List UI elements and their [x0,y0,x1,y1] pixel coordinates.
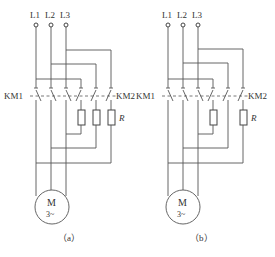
km1-label: KM1 [136,91,155,101]
terminal-l1 [166,23,170,27]
label-l3: L3 [192,10,202,20]
motor-label: M [47,197,56,208]
terminal-l1 [34,23,38,27]
km2-label: KM2 [116,91,135,101]
resistor-label: R [118,113,125,123]
contactor-km2 [208,88,245,110]
label-l1: L1 [162,10,172,20]
contactor-km2 [76,88,113,110]
motor-sub-label: 3~ [46,210,55,219]
label-l2: L2 [45,10,55,20]
caption-a: （a） [58,233,80,243]
terminal-l3 [196,23,200,27]
caption-b: （b） [190,233,213,243]
label-l3: L3 [60,10,70,20]
terminal-l3 [64,23,68,27]
km1-label: KM1 [4,91,23,101]
terminal-l2 [49,23,53,27]
resistor-2 [93,110,100,125]
resistor-3 [108,110,115,125]
resistor-1 [210,110,217,125]
km2-label: KM2 [248,91,267,101]
label-l2: L2 [177,10,187,20]
diagram-b: L1 L2 L3 KM1 KM2 R M 3~ [136,10,267,243]
circuit-figure: L1 L2 L3 KM1 KM2 R [0,0,275,257]
label-l1: L1 [30,10,40,20]
resistor-1 [78,110,85,125]
resistor-2 [240,110,247,125]
resistor-label: R [250,113,257,123]
diagram-a: L1 L2 L3 KM1 KM2 R [4,10,135,243]
motor-label: M [178,197,187,208]
terminal-l2 [181,23,185,27]
motor-sub-label: 3~ [177,210,186,219]
